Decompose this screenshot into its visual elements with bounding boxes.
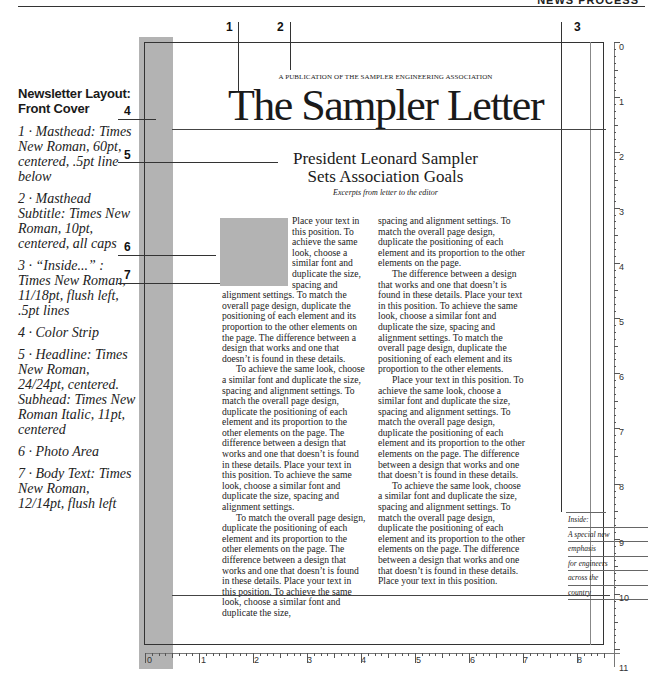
ruler-tick <box>614 221 616 222</box>
ruler-label: 5 <box>416 655 421 665</box>
callout-3: 3 <box>574 20 581 34</box>
ruler-tick <box>614 270 616 271</box>
ruler-tick <box>334 653 335 658</box>
ruler-tick <box>570 653 571 656</box>
ruler-tick <box>614 146 616 147</box>
ruler-tick <box>614 63 616 64</box>
ruler-tick <box>273 653 274 656</box>
ruler-tick <box>253 653 254 663</box>
ruler-tick <box>614 573 616 574</box>
ruler-tick <box>614 587 616 588</box>
ruler-tick <box>415 653 416 663</box>
body-paragraph: To achieve the same look, choose a simil… <box>222 364 367 512</box>
ruler-tick <box>614 435 616 436</box>
caption-body-text: 7 · Body Text: Times New Roman, 12/14pt,… <box>18 466 136 511</box>
ruler-tick <box>614 387 616 388</box>
header-rule <box>18 6 645 7</box>
ruler-tick <box>219 653 220 656</box>
ruler-tick <box>408 653 409 656</box>
ruler-tick <box>361 653 362 663</box>
subhead: Excerpts from letter to the editor <box>173 188 598 197</box>
callout-4-leader <box>118 119 156 120</box>
ruler-tick <box>614 332 616 333</box>
ruler-tick <box>503 653 504 656</box>
ruler-tick <box>564 653 565 656</box>
inside-line: A special new <box>568 528 648 543</box>
ruler-tick <box>614 111 616 112</box>
callout-7: 7 <box>124 268 131 282</box>
inside-line: for engineers <box>568 557 648 572</box>
callout-6: 6 <box>124 240 131 254</box>
ruler-tick <box>192 653 193 656</box>
ruler-tick <box>614 194 616 195</box>
ruler-tick <box>614 470 616 471</box>
ruler-tick <box>307 653 308 663</box>
ruler-tick <box>614 263 620 264</box>
ruler-tick <box>614 477 616 478</box>
ruler-tick <box>614 249 616 250</box>
ruler-tick <box>614 215 616 216</box>
ruler-tick <box>510 653 511 656</box>
ruler-tick <box>614 546 616 547</box>
ruler-tick <box>381 653 382 656</box>
callout-1: 1 <box>226 20 233 34</box>
ruler-tick <box>456 653 457 656</box>
ruler-tick <box>213 653 214 656</box>
body-paragraph: To match the overall page design, duplic… <box>222 513 367 619</box>
ruler-tick <box>523 653 524 663</box>
vertical-ruler: 0 1 2 3 4 5 6 7 8 9 10 11 <box>614 12 630 662</box>
ruler-tick <box>354 653 355 656</box>
masthead-subtitle: A PUBLICATION OF THE SAMPLER ENGINEERING… <box>173 73 598 81</box>
ruler-tick <box>614 442 616 443</box>
ruler-tick <box>489 653 490 656</box>
ruler-tick <box>614 408 616 409</box>
ruler-tick <box>614 152 620 153</box>
callout-6-leader <box>118 255 216 256</box>
caption-masthead-subtitle: 2 · Masthead Subtitle: Times New Roman, … <box>18 191 136 251</box>
masthead-rule <box>172 129 606 130</box>
ruler-tick <box>516 653 517 656</box>
ruler-tick <box>145 653 146 663</box>
ruler-tick <box>614 518 616 519</box>
ruler-tick <box>186 653 187 656</box>
masthead: The Sampler Letter <box>173 82 598 130</box>
ruler-tick <box>614 525 616 526</box>
ruler-tick <box>614 56 616 57</box>
caption-headline: 5 · Headline: Times New Roman, 24/24pt, … <box>18 347 136 437</box>
ruler-tick <box>233 653 234 656</box>
ruler-tick <box>614 228 616 229</box>
ruler-tick <box>246 653 247 656</box>
ruler-tick <box>577 653 578 663</box>
ruler-tick <box>614 242 616 243</box>
ruler-tick <box>614 290 618 291</box>
ruler-tick <box>614 304 616 305</box>
caption-masthead: 1 · Masthead: Times New Roman, 60pt, cen… <box>18 124 136 184</box>
inside-box: Inside: A special new emphasis for engin… <box>568 513 605 600</box>
ruler-tick <box>597 653 598 656</box>
body-paragraph: The difference between a design that wor… <box>378 269 526 375</box>
ruler-tick <box>172 653 173 658</box>
ruler-tick <box>294 653 295 656</box>
ruler-tick <box>614 83 616 84</box>
headline-line-1: President Leonard Sampler <box>173 150 598 168</box>
page-frame <box>144 42 604 645</box>
ruler-tick <box>614 608 616 609</box>
ruler-tick <box>614 166 616 167</box>
ruler-tick <box>614 180 618 181</box>
ruler-tick <box>375 653 376 656</box>
ruler-label: 10 <box>619 593 629 603</box>
ruler-tick <box>327 653 328 656</box>
ruler-tick <box>614 159 616 160</box>
ruler-tick <box>614 359 616 360</box>
ruler-tick <box>614 90 616 91</box>
ruler-tick <box>604 653 605 658</box>
ruler-tick <box>614 560 616 561</box>
ruler-tick <box>614 532 616 533</box>
ruler-tick <box>614 463 616 464</box>
ruler-tick <box>543 653 544 656</box>
section-label: NEWS PROCESS <box>537 0 639 6</box>
body-paragraph: spacing and alignment settings. To match… <box>378 216 526 269</box>
ruler-tick <box>614 118 616 119</box>
ruler-tick <box>476 653 477 656</box>
callout-7-leader <box>118 283 222 284</box>
